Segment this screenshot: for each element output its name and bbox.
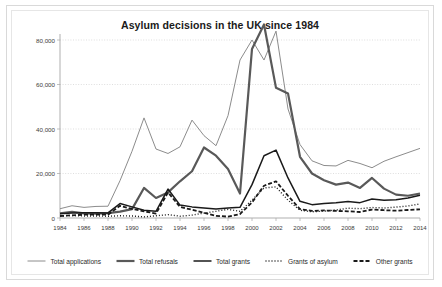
legend-swatch-line-thick-gray <box>116 257 135 265</box>
x-tick-label: 2010 <box>365 225 379 231</box>
x-tick-label: 1990 <box>125 225 139 231</box>
legend-swatch-line-thin-gray <box>27 257 46 265</box>
data-series-lines <box>60 24 420 216</box>
x-tick-label: 2012 <box>389 225 403 231</box>
legend-label: Grants of asylum <box>288 258 338 265</box>
legend-item-total-grants[interactable]: Total grants <box>193 257 250 265</box>
chart-legend: Total applicationsTotal refusalsTotal gr… <box>12 257 428 265</box>
y-tick-label: 20,000 <box>36 170 55 177</box>
chart-frame: Asylum decisions in the UK since 1984 02… <box>6 5 434 280</box>
legend-item-other-grants[interactable]: Other grants <box>353 257 413 265</box>
y-tick-label: 40,000 <box>36 126 55 133</box>
x-tick-label: 1994 <box>173 225 187 231</box>
x-tick-label: 2004 <box>293 225 307 231</box>
legend-swatch-line-dotted-black <box>265 257 284 265</box>
x-tick-label: 2008 <box>341 225 355 231</box>
x-axis-tick-labels: 1984198619881990199219941996199820002002… <box>53 225 427 231</box>
x-tick-label: 2002 <box>269 225 283 231</box>
y-axis-tick-labels: 020,00040,00060,00080,000 <box>36 37 60 222</box>
chart-canvas: Asylum decisions in the UK since 1984 02… <box>11 10 429 275</box>
legend-label: Total applications <box>50 258 101 265</box>
x-tick-label: 1984 <box>53 225 67 231</box>
x-tick-label: 2006 <box>317 225 331 231</box>
legend-item-total-applications[interactable]: Total applications <box>27 257 101 265</box>
legend-swatch-line-dashed-black <box>353 257 372 265</box>
legend-label: Total grants <box>216 258 250 265</box>
x-tick-label: 1996 <box>197 225 211 231</box>
y-tick-label: 80,000 <box>36 37 55 44</box>
legend-swatch-line-medium-black <box>193 257 212 265</box>
legend-label: Total refusals <box>139 258 178 265</box>
x-tick-label: 1988 <box>101 225 115 231</box>
x-tick-label: 2014 <box>413 225 427 231</box>
x-tick-label: 1986 <box>77 225 91 231</box>
plot-area: 020,00040,00060,00080,000 19841986198819… <box>12 11 430 276</box>
y-tick-label: 60,000 <box>36 81 55 88</box>
series-line-total-refusals <box>60 24 420 213</box>
x-tick-label: 1992 <box>149 225 163 231</box>
legend-item-grants-of-asylum[interactable]: Grants of asylum <box>265 257 338 265</box>
x-tick-label: 2000 <box>245 225 259 231</box>
legend-item-total-refusals[interactable]: Total refusals <box>116 257 178 265</box>
x-tick-label: 1998 <box>221 225 235 231</box>
legend-label: Other grants <box>376 258 413 265</box>
y-tick-label: 0 <box>52 215 56 222</box>
